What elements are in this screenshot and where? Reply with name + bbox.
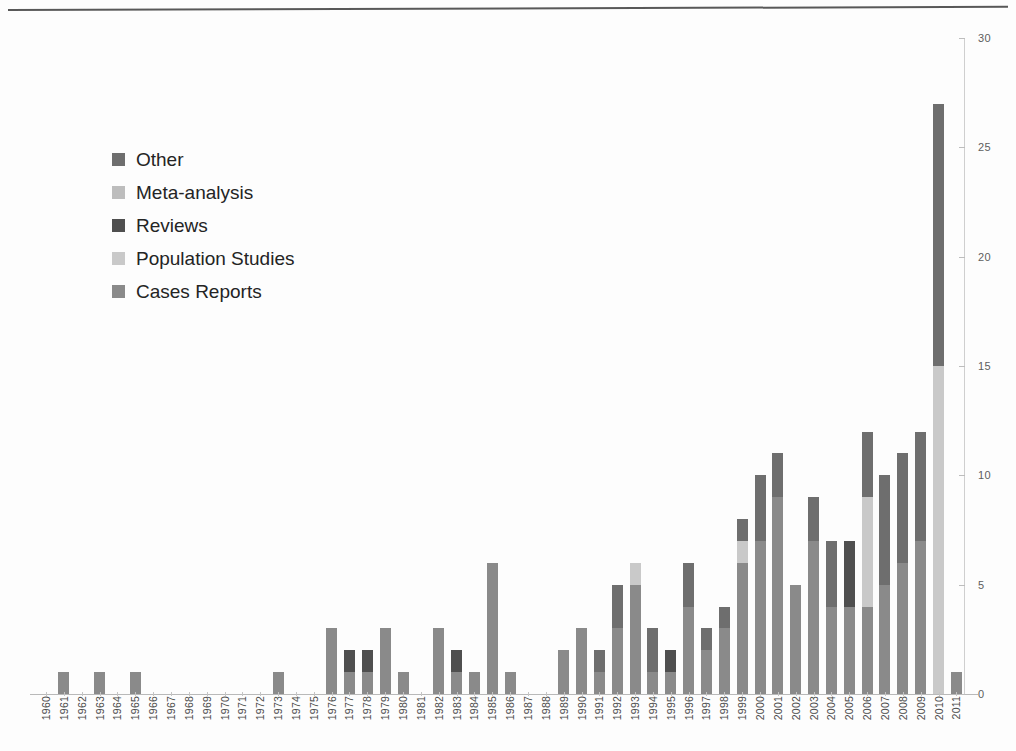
bar-segment bbox=[737, 541, 748, 563]
bar-1978[interactable] bbox=[362, 650, 373, 694]
bar-segment bbox=[344, 650, 355, 672]
bar-1961[interactable] bbox=[58, 672, 69, 694]
bar-segment bbox=[398, 672, 409, 694]
bar-2004[interactable] bbox=[826, 541, 837, 694]
bar-segment bbox=[737, 519, 748, 541]
legend-label: Cases Reports bbox=[136, 282, 262, 301]
bar-1992[interactable] bbox=[612, 585, 623, 694]
x-axis-tick-label-1985: 1985 bbox=[486, 696, 498, 720]
bar-1996[interactable] bbox=[683, 563, 694, 694]
bar-2002[interactable] bbox=[790, 585, 801, 694]
bar-1976[interactable] bbox=[326, 628, 337, 694]
legend-item-population-studies[interactable]: Population Studies bbox=[112, 242, 432, 275]
bar-segment bbox=[273, 672, 284, 694]
bar-segment bbox=[594, 650, 605, 672]
bar-segment bbox=[737, 563, 748, 694]
bar-segment bbox=[879, 585, 890, 694]
bar-2005[interactable] bbox=[844, 541, 855, 694]
x-axis-tick-label-1972: 1972 bbox=[254, 696, 266, 720]
legend-label: Reviews bbox=[136, 216, 208, 235]
x-axis-tick-label-1965: 1965 bbox=[129, 696, 141, 720]
x-axis-tick-label-1970: 1970 bbox=[219, 696, 231, 720]
bar-segment bbox=[665, 672, 676, 694]
bar-segment bbox=[612, 585, 623, 629]
bar-1986[interactable] bbox=[505, 672, 516, 694]
bar-1999[interactable] bbox=[737, 519, 748, 694]
bar-1997[interactable] bbox=[701, 628, 712, 694]
x-axis-tick-label-1986: 1986 bbox=[504, 696, 516, 720]
x-axis-tick-label-1995: 1995 bbox=[665, 696, 677, 720]
bar-1998[interactable] bbox=[719, 607, 730, 694]
y-axis-tick-label: 5 bbox=[978, 579, 984, 591]
x-axis-tick-label-1994: 1994 bbox=[647, 696, 659, 720]
bar-1979[interactable] bbox=[380, 628, 391, 694]
bar-2008[interactable] bbox=[897, 453, 908, 694]
bar-segment bbox=[808, 541, 819, 694]
bar-segment bbox=[630, 563, 641, 585]
x-axis-tick-label-1964: 1964 bbox=[111, 696, 123, 720]
bar-segment bbox=[326, 628, 337, 694]
x-axis-tick-label-1978: 1978 bbox=[361, 696, 373, 720]
x-axis-tick-label-1987: 1987 bbox=[522, 696, 534, 720]
x-axis-tick-label-1998: 1998 bbox=[718, 696, 730, 720]
x-axis-tick-label-1980: 1980 bbox=[397, 696, 409, 720]
x-axis-tick-label-1984: 1984 bbox=[468, 696, 480, 720]
x-axis-tick-label-1982: 1982 bbox=[433, 696, 445, 720]
x-axis-tick-label-1983: 1983 bbox=[451, 696, 463, 720]
bar-1965[interactable] bbox=[130, 672, 141, 694]
bar-1989[interactable] bbox=[558, 650, 569, 694]
legend-label: Meta-analysis bbox=[136, 183, 253, 202]
legend-item-reviews[interactable]: Reviews bbox=[112, 209, 432, 242]
bar-2006[interactable] bbox=[862, 432, 873, 694]
bar-1993[interactable] bbox=[630, 563, 641, 694]
bar-segment bbox=[879, 475, 890, 584]
bar-2011[interactable] bbox=[951, 672, 962, 694]
bar-1963[interactable] bbox=[94, 672, 105, 694]
bar-segment bbox=[683, 563, 694, 607]
x-axis-tick-label-1961: 1961 bbox=[58, 696, 70, 720]
legend-item-meta-analysis[interactable]: Meta-analysis bbox=[112, 176, 432, 209]
bar-segment bbox=[630, 585, 641, 694]
bar-segment bbox=[362, 650, 373, 672]
x-axis-tick-label-1963: 1963 bbox=[94, 696, 106, 720]
x-axis-tick-label-1977: 1977 bbox=[343, 696, 355, 720]
x-axis-tick-label-1989: 1989 bbox=[558, 696, 570, 720]
legend-item-other[interactable]: Other bbox=[112, 143, 432, 176]
bar-1991[interactable] bbox=[594, 650, 605, 694]
bar-2001[interactable] bbox=[772, 453, 783, 694]
x-axis-tick-label-2008: 2008 bbox=[897, 696, 909, 720]
bar-2003[interactable] bbox=[808, 497, 819, 694]
bar-1973[interactable] bbox=[273, 672, 284, 694]
x-axis-tick-label-2002: 2002 bbox=[790, 696, 802, 720]
legend-item-cases-reports[interactable]: Cases Reports bbox=[112, 275, 432, 308]
bar-1985[interactable] bbox=[487, 563, 498, 694]
bar-1984[interactable] bbox=[469, 672, 480, 694]
x-axis-tick-label-1976: 1976 bbox=[326, 696, 338, 720]
x-axis-tick-label-1990: 1990 bbox=[576, 696, 588, 720]
bar-2000[interactable] bbox=[755, 475, 766, 694]
y-axis-tick-label: 25 bbox=[978, 141, 991, 153]
x-axis-tick-label-2007: 2007 bbox=[879, 696, 891, 720]
y-axis-tick bbox=[959, 366, 965, 367]
bar-segment bbox=[772, 453, 783, 497]
bar-1995[interactable] bbox=[665, 650, 676, 694]
bar-1980[interactable] bbox=[398, 672, 409, 694]
x-axis-tick-label-1973: 1973 bbox=[272, 696, 284, 720]
bar-1982[interactable] bbox=[433, 628, 444, 694]
bar-2007[interactable] bbox=[879, 475, 890, 694]
bar-1977[interactable] bbox=[344, 650, 355, 694]
bar-segment bbox=[844, 607, 855, 694]
bar-segment bbox=[469, 672, 480, 694]
bar-segment bbox=[647, 672, 658, 694]
bar-series-container bbox=[20, 24, 980, 696]
legend-label: Other bbox=[136, 150, 184, 169]
x-axis-tick-label-1991: 1991 bbox=[593, 696, 605, 720]
bar-1983[interactable] bbox=[451, 650, 462, 694]
bar-1994[interactable] bbox=[647, 628, 658, 694]
y-axis-tick bbox=[959, 475, 965, 476]
x-axis-tick-label-1969: 1969 bbox=[201, 696, 213, 720]
bar-segment bbox=[951, 672, 962, 694]
bar-2010[interactable] bbox=[933, 104, 944, 694]
bar-1990[interactable] bbox=[576, 628, 587, 694]
bar-2009[interactable] bbox=[915, 432, 926, 694]
